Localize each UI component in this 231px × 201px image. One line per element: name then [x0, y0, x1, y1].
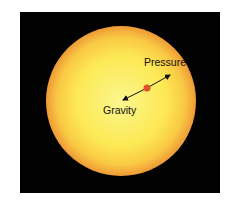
gravity-label: Gravity: [103, 104, 136, 116]
star-body: [46, 26, 196, 176]
gas-particle: [144, 85, 151, 92]
pressure-label: Pressure: [144, 56, 186, 68]
star-diagram: [0, 0, 231, 201]
